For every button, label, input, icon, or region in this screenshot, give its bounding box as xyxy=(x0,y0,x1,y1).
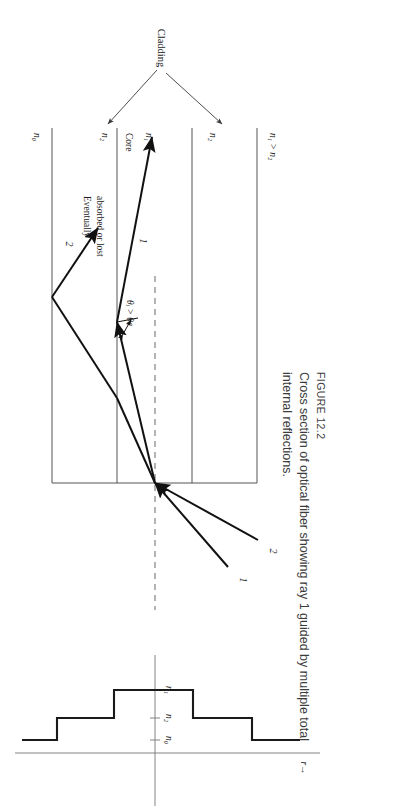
label-n1-core: n₁ xyxy=(144,133,154,141)
ray-2-in-core xyxy=(117,398,155,483)
label-core: Core xyxy=(124,133,134,151)
profile-label-n1: n₁ xyxy=(164,686,174,694)
absorbed-note-line1: Eventually xyxy=(82,196,92,237)
profile-label-n2: n₂ xyxy=(164,714,174,723)
ray-2-incident xyxy=(155,483,258,540)
fiber-cross-section: Cladding n₀ n₂ Core n₁ n₂ n₁ > n₂ Eventu… xyxy=(32,29,279,610)
figure-canvas: Cladding n₀ n₂ Core n₁ n₂ n₁ > n₂ Eventu… xyxy=(0,0,398,806)
cladding-leader-right xyxy=(166,73,222,124)
cladding-label: Cladding xyxy=(156,29,167,68)
figure-caption-block: FIGURE 12.2 Cross section of optical fib… xyxy=(271,0,333,806)
ray-2-in-cladding xyxy=(52,297,117,398)
figure-page: Cladding n₀ n₂ Core n₁ n₂ n₁ > n₂ Eventu… xyxy=(0,0,398,806)
ray-2-path xyxy=(52,228,258,540)
ray-1-label-inside: 1 xyxy=(138,239,149,244)
profile-label-n0: n₀ xyxy=(164,736,174,744)
ray-1-reflected xyxy=(117,137,152,322)
critical-angle-label: θᵢ > θc xyxy=(125,300,135,327)
ray-1-path xyxy=(117,137,228,567)
ray-1-refracted xyxy=(117,322,155,483)
ray-2-label-inside: 2 xyxy=(64,242,75,247)
label-n0-left: n₀ xyxy=(32,133,42,141)
figure-caption-text: Cross section of optical fiber showing r… xyxy=(278,372,312,772)
ray-1-label-entry: 1 xyxy=(238,578,249,583)
profile-step-curve xyxy=(22,690,300,740)
ray-2-escaping xyxy=(52,228,98,297)
label-n2-left: n₂ xyxy=(100,133,110,142)
figure-number: FIGURE 12.2 xyxy=(315,372,327,792)
cladding-callout: Cladding xyxy=(108,29,222,124)
label-n2-right: n₂ xyxy=(208,133,218,142)
absorbed-note-line2: absorbed or lost xyxy=(95,196,105,257)
ray-1-incident xyxy=(155,483,228,567)
cladding-leader-left xyxy=(108,70,157,124)
